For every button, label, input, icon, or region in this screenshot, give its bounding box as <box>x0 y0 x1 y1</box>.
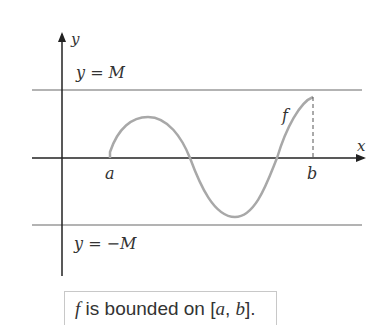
bounded-function-diagram: y x y = M y = −M f a b <box>0 0 385 325</box>
lower-bound-label: y = −M <box>73 234 137 253</box>
a-label: a <box>105 164 115 183</box>
y-axis-label: y <box>70 30 80 48</box>
caption-text: is bounded on <box>80 298 210 319</box>
caption-box: f is bounded on [a, b]. <box>64 291 277 325</box>
caption-a: a <box>216 298 226 319</box>
b-label: b <box>307 164 317 183</box>
caption-b: b <box>236 298 246 319</box>
upper-bound-label: y = M <box>75 63 126 82</box>
function-label: f <box>281 106 291 125</box>
caption-comma: , <box>225 298 236 319</box>
x-axis-label: x <box>357 137 366 155</box>
caption-close: ]. <box>245 298 256 319</box>
